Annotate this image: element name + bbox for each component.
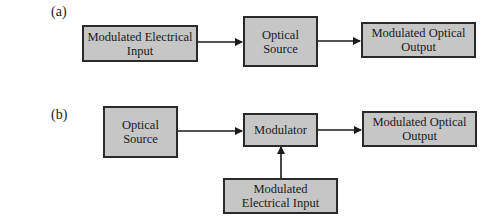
box-b-modulated-optical-output: Modulated Optical Output — [362, 111, 477, 147]
box-a-optical-source: Optical Source — [243, 16, 318, 67]
box-a-modulated-optical-output: Modulated Optical Output — [361, 22, 476, 58]
diagram-b-label: (b) — [51, 107, 67, 123]
box-b-modulated-electrical-input: Modulated Electrical Input — [223, 178, 338, 214]
diagram-a-label: (a) — [51, 4, 67, 20]
box-b-modulator: Modulator — [243, 113, 318, 147]
box-b-optical-source: Optical Source — [103, 106, 178, 158]
box-a-modulated-electrical-input: Modulated Electrical Input — [82, 25, 198, 62]
